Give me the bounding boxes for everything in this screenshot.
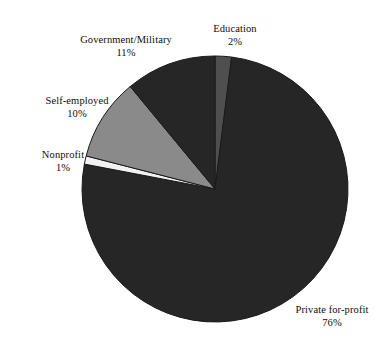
slice-label-self-employed: Self-employed 10% — [16, 94, 138, 120]
slice-label-nonprofit-percent: 1% — [8, 161, 118, 174]
pie-chart-figure: Education 2% Government/Military 11% Sel… — [0, 0, 389, 350]
slice-label-private-for-profit-name: Private for-profit — [276, 303, 388, 316]
slice-label-government-military: Government/Military 11% — [56, 33, 196, 59]
slice-label-self-employed-percent: 10% — [16, 107, 138, 120]
slice-label-government-military-name: Government/Military — [56, 33, 196, 46]
slice-label-government-military-percent: 11% — [56, 46, 196, 59]
slice-label-private-for-profit-percent: 76% — [276, 316, 388, 329]
slice-label-self-employed-name: Self-employed — [16, 94, 138, 107]
slice-label-private-for-profit: Private for-profit 76% — [276, 303, 388, 329]
slice-label-nonprofit-name: Nonprofit — [8, 148, 118, 161]
slice-label-nonprofit: Nonprofit 1% — [8, 148, 118, 174]
